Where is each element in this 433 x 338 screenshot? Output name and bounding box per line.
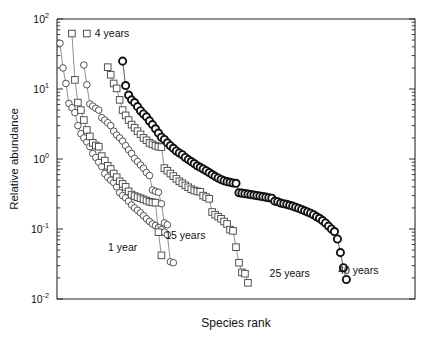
data-point [230, 228, 237, 235]
data-point [113, 85, 120, 92]
data-point [334, 235, 341, 242]
data-point [158, 200, 165, 207]
data-point [95, 107, 102, 114]
data-point [95, 143, 102, 150]
data-point [57, 40, 64, 47]
data-point [122, 82, 129, 89]
data-point [155, 189, 162, 196]
y-tick-label: 102 [33, 11, 49, 25]
series-annotation-label: 1 year [108, 241, 138, 253]
series-annotation-label: 15 years [165, 229, 205, 241]
data-point [164, 221, 171, 228]
data-point [119, 58, 126, 65]
data-point [245, 280, 252, 287]
data-point [170, 259, 177, 266]
data-point [107, 71, 114, 78]
data-point [343, 276, 350, 283]
data-point [81, 117, 88, 124]
data-point [146, 172, 153, 179]
data-series-layer [57, 30, 350, 286]
series-annotation-label: 25 years [270, 267, 310, 279]
data-point [75, 99, 82, 106]
series-annotation-label: 40 years [338, 264, 378, 276]
y-axis-ticks [57, 19, 415, 299]
data-point [84, 81, 91, 88]
y-axis-title: Relative abundance [8, 108, 20, 210]
data-point [81, 62, 88, 69]
data-point [87, 133, 94, 140]
y-axis-tick-labels: 10210110010-110-2 [31, 11, 49, 305]
data-point [69, 30, 76, 37]
data-point [72, 77, 79, 84]
data-point [78, 107, 85, 114]
x-axis-title: Species rank [201, 316, 271, 330]
rank-abundance-figure: 10210110010-110-2 4 years1 year15 years2… [0, 0, 433, 338]
data-point [152, 199, 159, 206]
data-point [84, 127, 91, 134]
y-tick-label: 101 [33, 81, 49, 95]
data-point [331, 228, 338, 235]
annotation-marker-square [84, 30, 91, 37]
data-point [233, 244, 240, 251]
data-point [232, 180, 239, 187]
chart-canvas: 10210110010-110-2 4 years1 year15 years2… [0, 0, 433, 338]
data-point [236, 259, 243, 266]
data-point [60, 65, 67, 72]
data-point [337, 249, 344, 256]
data-point [116, 97, 123, 104]
y-tick-label: 10-1 [31, 221, 49, 235]
plot-frame [57, 19, 415, 299]
data-point [155, 229, 162, 236]
y-tick-label: 10-2 [31, 291, 49, 305]
data-point [242, 270, 249, 277]
data-point [206, 196, 213, 203]
data-point [63, 80, 70, 87]
y-tick-label: 100 [33, 151, 49, 165]
data-point [158, 252, 165, 259]
series-annotation-label: 4 years [95, 27, 129, 39]
data-point [104, 64, 111, 71]
